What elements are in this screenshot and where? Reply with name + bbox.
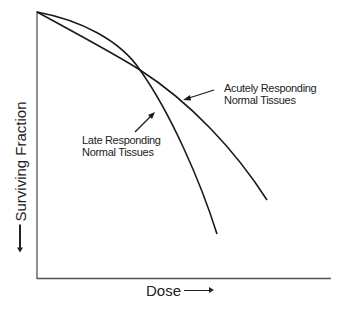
acute-label-line2: Normal Tissues (224, 94, 316, 106)
y-axis-title-text: Surviving Fraction (12, 101, 29, 221)
late-pointer-arrow-icon (135, 112, 155, 132)
y-axis-title: Surviving Fraction (12, 101, 29, 248)
late-label-line1: Late Responding (82, 134, 161, 146)
chart-canvas (0, 0, 338, 311)
x-axis-title-text: Dose (146, 282, 181, 299)
late-label-line2: Normal Tissues (82, 146, 161, 158)
down-arrow-icon (19, 225, 21, 249)
right-arrow-icon (184, 290, 210, 292)
x-axis-title: Dose (146, 282, 210, 299)
acute-label-line1: Acutely Responding (224, 82, 316, 94)
acute-pointer-arrow-icon (183, 90, 214, 101)
late-responding-curve (37, 12, 217, 234)
late-label: Late Responding Normal Tissues (82, 134, 161, 158)
acute-label: Acutely Responding Normal Tissues (224, 82, 316, 106)
acute-responding-curve (37, 12, 267, 200)
